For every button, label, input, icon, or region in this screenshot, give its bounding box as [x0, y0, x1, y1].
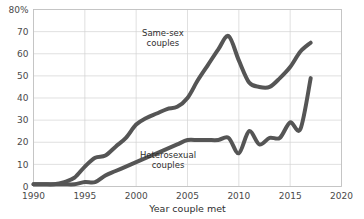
y-axis-tick-labels: 01020304050607080%	[8, 5, 28, 192]
y-tick-label: 40	[17, 93, 29, 103]
y-tick-label: 20	[17, 137, 29, 147]
x-tick-label: 1990	[22, 191, 45, 201]
x-tick-label: 2000	[125, 191, 148, 201]
x-tick-label: 1995	[73, 191, 96, 201]
x-axis-title: Year couple met	[148, 203, 226, 214]
y-tick-label: 30	[17, 115, 29, 125]
x-tick-label: 2015	[279, 191, 302, 201]
series-label: couples	[147, 38, 180, 48]
y-tick-label: 10	[17, 160, 29, 170]
x-axis-tick-labels: 1990199520002005201020152020	[22, 191, 353, 201]
y-tick-label: 50	[17, 71, 29, 81]
y-tick-label: 60	[17, 49, 29, 59]
series-label: couples	[152, 160, 185, 170]
line-chart: 01020304050607080% 199019952000200520102…	[0, 0, 364, 219]
y-tick-label: 80%	[8, 5, 28, 15]
x-tick-label: 2010	[227, 191, 250, 201]
chart-canvas: 01020304050607080% 199019952000200520102…	[0, 0, 364, 219]
x-tick-label: 2005	[176, 191, 199, 201]
series-label: Heterosexual	[140, 150, 196, 160]
series-label: Same-sex	[142, 28, 184, 38]
x-tick-label: 2020	[330, 191, 353, 201]
y-tick-label: 70	[17, 27, 29, 37]
